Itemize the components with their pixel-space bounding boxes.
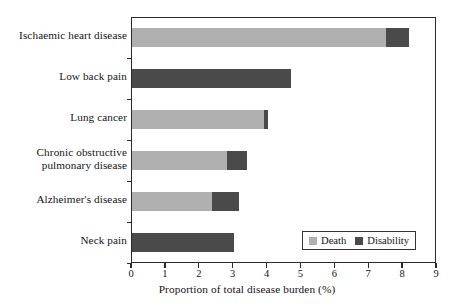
category-label: Lung cancer xyxy=(0,111,127,123)
chart-legend: Death Disability xyxy=(302,231,416,250)
x-axis-tick-label: 6 xyxy=(322,268,346,279)
legend-item-disability: Disability xyxy=(355,235,409,246)
bar-segment-disability xyxy=(132,69,291,88)
y-axis-tick xyxy=(127,181,132,182)
bar-segment-disability xyxy=(386,28,409,47)
x-axis-tick-label: 1 xyxy=(153,268,177,279)
y-axis-tick xyxy=(127,58,132,59)
x-axis-tick-label: 9 xyxy=(424,268,448,279)
y-axis-tick xyxy=(127,140,132,141)
x-axis-tick-label: 8 xyxy=(390,268,414,279)
bar-segment-disability xyxy=(212,192,239,211)
bar-segment-disability xyxy=(132,233,234,252)
x-axis-tick-label: 0 xyxy=(119,268,143,279)
category-axis-labels: Ischaemic heart diseaseLow back painLung… xyxy=(0,0,127,306)
legend-swatch-disability-icon xyxy=(355,237,363,245)
x-axis-tick-label: 2 xyxy=(187,268,211,279)
category-label: Low back pain xyxy=(0,70,127,82)
category-label: Ischaemic heart disease xyxy=(0,29,127,41)
y-axis-tick xyxy=(127,99,132,100)
x-axis-title: Proportion of total disease burden (%) xyxy=(0,283,452,295)
x-axis-tick-label: 5 xyxy=(288,268,312,279)
bar-segment-disability xyxy=(264,110,267,129)
category-label: Neck pain xyxy=(0,234,127,246)
legend-swatch-death-icon xyxy=(309,237,317,245)
plot-area xyxy=(131,17,436,263)
bar-segment-death xyxy=(132,151,227,170)
bar-segment-death xyxy=(132,28,386,47)
y-axis-tick xyxy=(127,222,132,223)
disease-burden-bar-chart: Ischaemic heart diseaseLow back painLung… xyxy=(0,0,452,306)
x-axis-tick-label: 3 xyxy=(221,268,245,279)
category-label: Chronic obstructive pulmonary disease xyxy=(0,146,127,171)
x-axis-tick-label: 7 xyxy=(356,268,380,279)
bar-segment-death xyxy=(132,110,264,129)
legend-label-death: Death xyxy=(321,235,346,246)
category-label: Alzheimer's disease xyxy=(0,193,127,205)
legend-item-death: Death xyxy=(309,235,346,246)
bar-segment-disability xyxy=(227,151,247,170)
bar-segment-death xyxy=(132,192,212,211)
x-axis-tick-label: 4 xyxy=(255,268,279,279)
x-axis-title-text: Proportion of total disease burden (%) xyxy=(117,283,336,295)
legend-label-disability: Disability xyxy=(367,235,409,246)
